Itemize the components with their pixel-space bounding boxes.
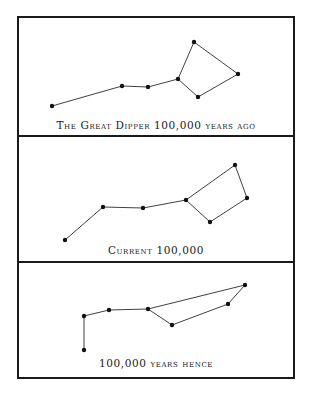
constellation-line xyxy=(194,42,238,74)
star-dot xyxy=(233,163,237,167)
star-dot xyxy=(208,220,212,224)
star-dot xyxy=(141,206,145,210)
star-dot xyxy=(107,308,111,312)
constellation-line xyxy=(178,42,194,79)
outer-frame xyxy=(18,17,294,378)
great-dipper-figure: The Great Dipper 100,000 years ago Curre… xyxy=(0,0,310,394)
caption-future: 100,000 years hence xyxy=(30,357,282,369)
constellation-line xyxy=(52,86,122,106)
constellation-line xyxy=(84,310,109,316)
star-dot xyxy=(176,77,180,81)
star-dot xyxy=(146,307,150,311)
constellation-line xyxy=(235,165,247,198)
star-dot xyxy=(50,104,54,108)
star-dot xyxy=(120,84,124,88)
constellation-line xyxy=(210,198,247,222)
constellation-line xyxy=(103,207,143,208)
constellation-line xyxy=(122,86,148,87)
constellation-line xyxy=(186,165,235,200)
constellation-diagram xyxy=(0,0,310,394)
star-dot xyxy=(146,85,150,89)
constellation-line xyxy=(109,309,148,310)
panel-current xyxy=(63,163,249,242)
constellation-line xyxy=(178,79,198,97)
star-dot xyxy=(192,40,196,44)
star-dot xyxy=(226,302,230,306)
star-dot xyxy=(82,348,86,352)
constellation-line xyxy=(65,207,103,240)
star-dot xyxy=(170,323,174,327)
constellation-line xyxy=(228,285,245,304)
star-dot xyxy=(184,198,188,202)
constellation-line xyxy=(148,309,172,325)
star-dot xyxy=(236,72,240,76)
constellation-line xyxy=(148,285,245,309)
star-dot xyxy=(245,196,249,200)
caption-past: The Great Dipper 100,000 years ago xyxy=(30,119,282,131)
constellation-line xyxy=(186,200,210,222)
star-dot xyxy=(63,238,67,242)
star-dot xyxy=(82,314,86,318)
constellation-line xyxy=(198,74,238,97)
star-dot xyxy=(243,283,247,287)
constellation-line xyxy=(148,79,178,87)
panel-past xyxy=(50,40,240,108)
star-dot xyxy=(196,95,200,99)
constellation-line xyxy=(143,200,186,208)
panel-future xyxy=(82,283,247,352)
constellation-line xyxy=(172,304,228,325)
star-dot xyxy=(101,205,105,209)
caption-current: Current 100,000 xyxy=(30,244,282,256)
